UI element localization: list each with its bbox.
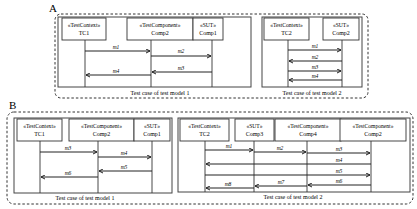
- panel-a-test-case-2: «TestContext» TC2 «SUT» Comp2 m1 m2 m3: [262, 17, 362, 96]
- svg-text:m4: m4: [113, 68, 120, 74]
- message-m3: m3: [40, 145, 97, 153]
- message-m6: m6: [308, 178, 371, 186]
- message-m1: m1: [205, 143, 253, 151]
- message-m5: m5: [205, 168, 370, 176]
- panel-a: A «TestContext» TC1 «TestComponent» Comp…: [49, 2, 368, 98]
- message-m3: m3: [152, 65, 212, 72]
- svg-text:m5: m5: [121, 164, 128, 170]
- panel-b-test-case-1: «TestContext» TC1 «TestComponent» Comp2 …: [14, 118, 172, 201]
- stereotype: «TestContext»: [68, 22, 101, 28]
- lifeline-tc1: «TestContext» TC1: [62, 18, 106, 87]
- lifeline-tc2: «TestContext» TC2: [264, 18, 309, 87]
- message-m4: m4: [289, 73, 342, 81]
- lifeline-name: Comp2: [332, 30, 350, 36]
- svg-text:m3: m3: [65, 145, 72, 151]
- lifeline-comp2: «SUT» Comp2: [323, 18, 359, 87]
- svg-text:m6: m6: [65, 170, 72, 176]
- svg-text:m5: m5: [336, 168, 343, 174]
- lifeline-name: Comp2: [151, 30, 169, 36]
- lifeline-name: Comp3: [246, 131, 264, 137]
- panel-b-test-case-2: «TestContext» TC2 «SUT» Comp3 «TestCompo…: [178, 118, 410, 200]
- lifeline-name: TC2: [281, 30, 292, 36]
- lifeline-name: Comp1: [199, 30, 217, 36]
- lifeline-comp4: «TestComponent» Comp4: [275, 119, 341, 192]
- test-case-caption: Test case of test model 1: [55, 195, 114, 201]
- stereotype: «SUT»: [200, 22, 216, 28]
- panel-a-test-case-1: «TestContext» TC1 «TestComponent» Comp2 …: [58, 17, 251, 96]
- message-m4: m4: [98, 150, 151, 158]
- message-m2: m2: [289, 54, 342, 62]
- svg-text:m1: m1: [226, 143, 233, 149]
- svg-text:m3: m3: [336, 146, 343, 152]
- panel-label: B: [9, 99, 16, 111]
- stereotype: «TestComponent»: [353, 123, 394, 129]
- svg-text:m8: m8: [225, 181, 232, 187]
- stereotype: «TestComponent»: [288, 123, 329, 129]
- svg-text:m6: m6: [336, 178, 343, 184]
- stereotype: «TestContext»: [23, 123, 56, 129]
- lifeline-tc1: «TestContext» TC1: [17, 119, 62, 193]
- svg-text:m4: m4: [121, 150, 128, 156]
- message-m5: m5: [99, 164, 152, 172]
- message-m3: m3: [307, 146, 370, 154]
- stereotype: «TestComponent»: [140, 22, 181, 28]
- stereotype: «SUT»: [144, 123, 160, 129]
- svg-text:m1: m1: [312, 43, 319, 49]
- message-m7: m7: [255, 179, 307, 187]
- lifeline-name: Comp1: [143, 131, 161, 137]
- svg-text:m7: m7: [278, 179, 285, 185]
- panel-label: A: [49, 2, 57, 14]
- svg-text:m3: m3: [178, 65, 185, 71]
- svg-text:m3: m3: [312, 64, 319, 70]
- svg-text:m2: m2: [312, 54, 319, 60]
- message-m4: m4: [206, 157, 371, 165]
- lifeline-comp1: «SUT» Comp1: [134, 119, 170, 193]
- stereotype: «TestContext»: [270, 22, 303, 28]
- message-m3: m3: [288, 64, 341, 72]
- message-m1: m1: [85, 44, 150, 51]
- message-m4: m4: [86, 68, 151, 75]
- stereotype: «SUT»: [333, 22, 349, 28]
- sequence-diagram-figure: A «TestContext» TC1 «TestComponent» Comp…: [0, 0, 417, 209]
- lifeline-comp3: «SUT» Comp3: [235, 119, 274, 192]
- test-case-caption: Test case of test model 2: [263, 194, 322, 200]
- lifeline-comp1: «SUT» Comp1: [193, 18, 223, 87]
- svg-text:m2: m2: [277, 145, 284, 151]
- svg-text:m1: m1: [113, 44, 120, 50]
- panel-b: B «TestContext» TC1 «TestComponent» Comp…: [7, 99, 413, 204]
- svg-text:m4: m4: [336, 157, 343, 163]
- lifeline-tc2: «TestContext» TC2: [180, 119, 229, 192]
- message-m8: m8: [206, 181, 254, 189]
- stereotype: «TestComponent»: [81, 123, 122, 129]
- message-m6: m6: [41, 170, 98, 178]
- lifeline-comp2: «TestComponent» Comp2: [69, 119, 134, 193]
- lifeline-name: Comp4: [299, 131, 317, 137]
- stereotype: «SUT»: [246, 123, 262, 129]
- lifeline-name: TC1: [34, 131, 45, 137]
- lifeline-name: TC1: [79, 30, 90, 36]
- message-m2: m2: [254, 145, 306, 153]
- lifeline-comp2: «TestComponent» Comp2: [340, 119, 406, 192]
- message-m1: m1: [288, 43, 341, 51]
- svg-text:m2: m2: [178, 48, 185, 54]
- lifeline-name: Comp2: [364, 131, 382, 137]
- lifeline-name: TC2: [199, 131, 210, 137]
- lifeline-name: Comp2: [93, 131, 111, 137]
- svg-text:m4: m4: [312, 73, 319, 79]
- message-m2: m2: [151, 48, 211, 56]
- stereotype: «TestContext»: [188, 123, 221, 129]
- test-case-caption: Test case of test model 2: [282, 90, 341, 96]
- test-case-caption: Test case of test model 1: [130, 90, 189, 96]
